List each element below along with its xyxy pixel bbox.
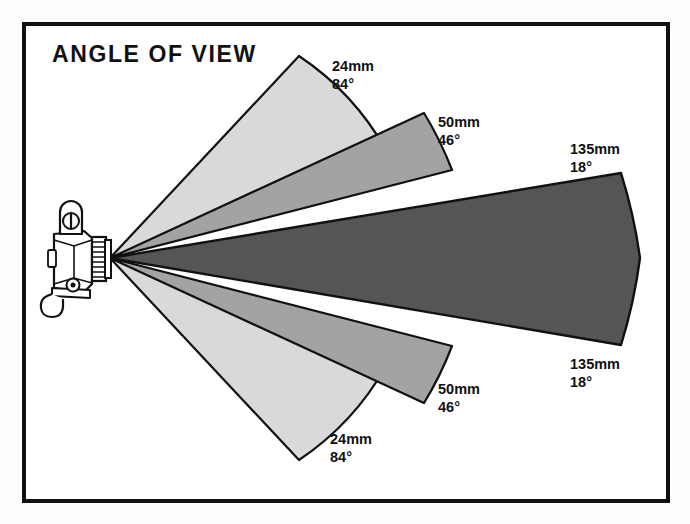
label-135mm-bottom-focal: 135mm	[570, 356, 620, 374]
label-135mm-bottom-angle: 18°	[570, 374, 620, 392]
label-24mm-bottom-angle: 84°	[330, 449, 372, 467]
label-24mm-top: 24mm 84°	[332, 58, 374, 93]
label-50mm-bottom: 50mm 46°	[438, 381, 480, 416]
label-135mm-top-focal: 135mm	[570, 141, 620, 159]
page-title: ANGLE OF VIEW	[52, 41, 257, 68]
label-50mm-top: 50mm 46°	[438, 114, 480, 149]
label-135mm-top: 135mm 18°	[570, 141, 620, 176]
label-24mm-bottom: 24mm 84°	[330, 431, 372, 466]
label-50mm-top-angle: 46°	[438, 132, 480, 150]
label-24mm-bottom-focal: 24mm	[330, 431, 372, 449]
label-50mm-bottom-angle: 46°	[438, 399, 480, 417]
camera-icon	[41, 201, 111, 317]
label-135mm-top-angle: 18°	[570, 159, 620, 177]
label-135mm-bottom: 135mm 18°	[570, 356, 620, 391]
label-50mm-top-focal: 50mm	[438, 114, 480, 132]
label-50mm-bottom-focal: 50mm	[438, 381, 480, 399]
label-24mm-top-angle: 84°	[332, 76, 374, 94]
diagram-page: ANGLE OF VIEW 24mm 84° 50mm 46° 135mm 18…	[0, 0, 690, 524]
label-24mm-top-focal: 24mm	[332, 58, 374, 76]
